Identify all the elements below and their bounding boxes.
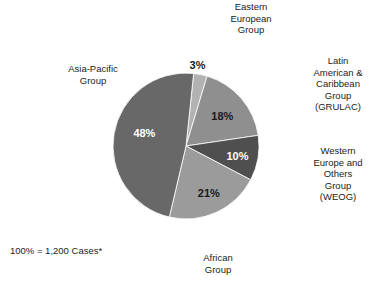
pie-label-asia-pacific-group: Asia-Pacific Group: [50, 63, 136, 86]
pie-chart-graphic: 3%18%10%21%48%: [0, 0, 376, 285]
chart-footnote-total: 100% = 1,200 Cases*: [10, 245, 102, 257]
pie-label-western-europe-and-others-group: Western Europe and Others Group (WEOG): [300, 145, 376, 203]
pie-slice-value-label: 3%: [190, 59, 206, 71]
pie-label-latin-american-caribbean-group: Latin American & Caribbean Group (GRULAC…: [300, 55, 376, 113]
pie-label-african-group: African Group: [180, 252, 256, 275]
pie-chart-figure: 3%18%10%21%48% Eastern European Group La…: [0, 0, 376, 285]
pie-label-eastern-european-group: Eastern European Group: [212, 1, 290, 36]
